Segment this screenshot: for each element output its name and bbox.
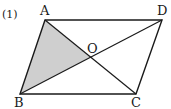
shaded-triangle-abo — [20, 20, 91, 94]
problem-number: (1) — [2, 8, 18, 21]
label-d: D — [157, 3, 167, 18]
parallelogram-diagram: (1) A D B C O — [0, 0, 171, 109]
label-o: O — [87, 41, 98, 56]
label-b: B — [14, 95, 24, 109]
label-c: C — [131, 95, 141, 109]
label-a: A — [39, 3, 50, 18]
